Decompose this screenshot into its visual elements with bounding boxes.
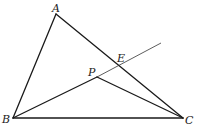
- label-B: B: [1, 113, 10, 126]
- label-E: E: [116, 52, 125, 65]
- label-P: P: [87, 66, 96, 79]
- segment-AC: [56, 14, 183, 118]
- label-C: C: [185, 114, 194, 127]
- ray-PE-extended: [97, 43, 161, 77]
- segment-AB: [13, 14, 56, 118]
- geometry-diagram: A B C P E: [0, 0, 197, 139]
- label-A: A: [51, 2, 60, 15]
- segment-BP: [13, 77, 97, 118]
